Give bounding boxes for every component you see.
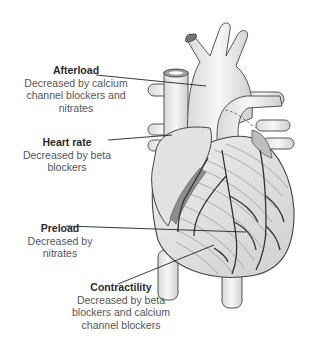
label-afterload-line-2: channel blockers and bbox=[6, 89, 146, 102]
label-heart-rate: Heart rate Decreased by beta blockers bbox=[4, 136, 130, 174]
label-contractility-line-2: blockers and calcium bbox=[56, 306, 186, 319]
label-contractility: Contractility Decreased by beta blockers… bbox=[56, 281, 186, 331]
label-contractility-title: Contractility bbox=[56, 281, 186, 294]
label-heart-rate-line-1: Decreased by beta bbox=[4, 149, 130, 162]
label-heart-rate-line-2: blockers bbox=[4, 161, 130, 174]
label-contractility-line-3: channel blockers bbox=[56, 319, 186, 332]
label-afterload-title: Afterload bbox=[6, 64, 146, 77]
label-afterload-line-3: nitrates bbox=[6, 102, 146, 115]
label-preload: Preload Decreased by nitrates bbox=[18, 222, 102, 260]
label-preload-title: Preload bbox=[18, 222, 102, 235]
label-preload-line-1: Decreased by bbox=[18, 235, 102, 248]
label-preload-line-2: nitrates bbox=[18, 247, 102, 260]
label-afterload-line-1: Decreased by calcium bbox=[6, 77, 146, 90]
heart-diagram: Afterload Decreased by calcium channel b… bbox=[0, 0, 310, 340]
label-heart-rate-title: Heart rate bbox=[4, 136, 130, 149]
label-contractility-line-1: Decreased by beta bbox=[56, 294, 186, 307]
label-afterload: Afterload Decreased by calcium channel b… bbox=[6, 64, 146, 114]
